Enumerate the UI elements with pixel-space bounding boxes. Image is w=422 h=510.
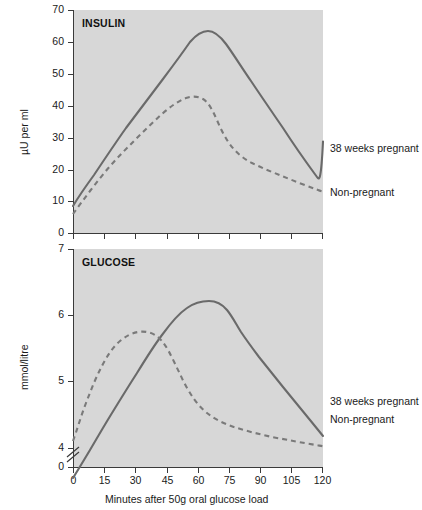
insulin-panel: 70 60 50 40 30 20 10 0 INSULIN µU per ml bbox=[0, 0, 422, 240]
glucose-curve-pregnant bbox=[73, 301, 323, 478]
glucose-legend-nonpregnant: Non-pregnant bbox=[330, 413, 394, 425]
glucose-legend-pregnant: 38 weeks pregnant bbox=[330, 395, 419, 407]
insulin-curve-pregnant bbox=[73, 31, 323, 206]
glucose-panel: 7 6 5 4 0 0 15 30 45 60 75 90 105 120 bbox=[0, 240, 422, 510]
insulin-curve-nonpregnant bbox=[73, 97, 323, 214]
figure-root: 70 60 50 40 30 20 10 0 INSULIN µU per ml bbox=[0, 0, 422, 510]
glucose-curves bbox=[0, 240, 422, 510]
insulin-curves bbox=[0, 0, 422, 240]
insulin-legend-nonpregnant: Non-pregnant bbox=[330, 186, 394, 198]
insulin-legend-pregnant: 38 weeks pregnant bbox=[330, 142, 419, 154]
